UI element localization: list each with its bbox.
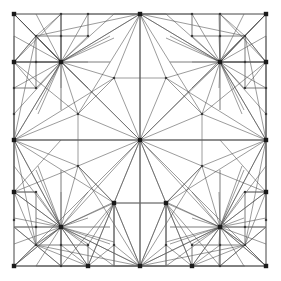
mesh-node-l2 (12, 190, 16, 194)
mesh-node-minor-2 (60, 13, 62, 15)
mesh-node-minor-10 (60, 265, 62, 267)
mesh-node-minor-13 (165, 77, 167, 79)
mesh-node-minor-34 (60, 35, 62, 37)
mesh-node-minor-7 (265, 113, 267, 115)
mesh-node-r2 (264, 190, 268, 194)
mesh-node-minor-0 (87, 13, 89, 15)
mesh-node-minor-8 (13, 219, 15, 221)
mesh-node-e_t (138, 12, 142, 16)
mesh-node-e_r (264, 138, 268, 142)
mesh-node-minor-19 (87, 35, 89, 37)
mesh-node-minor-18 (35, 35, 37, 37)
mesh-node-k_tl (12, 12, 16, 16)
mesh-node-k_tr (264, 12, 268, 16)
mesh-node-h1 (59, 60, 63, 64)
mesh-node-minor-30 (35, 61, 37, 63)
mesh-node-minor-31 (244, 61, 246, 63)
mesh-node-minor-32 (35, 226, 37, 228)
mesh-node-h3 (59, 225, 63, 229)
mesh-node-minor-26 (35, 244, 37, 246)
mesh-node-k_br (264, 264, 268, 268)
mesh-node-minor-27 (87, 244, 89, 246)
mesh-node-minor-12 (113, 77, 115, 79)
mesh-node-e_b (138, 264, 142, 268)
mesh-node-minor-28 (191, 244, 193, 246)
mesh-node-minor-20 (244, 35, 246, 37)
mesh-node-minor-11 (219, 265, 221, 267)
mesh-node-minor-4 (13, 87, 15, 89)
mesh-node-r1 (264, 60, 268, 64)
mesh-node-h2 (218, 60, 222, 64)
mesh-figure (0, 0, 281, 281)
mesh-node-minor-39 (165, 244, 167, 246)
mesh-node-minor-24 (35, 191, 37, 193)
mesh-node-minor-3 (219, 13, 221, 15)
mesh-node-l1 (12, 60, 16, 64)
mesh-node-k_bl (12, 264, 16, 268)
mesh-node-minor-29 (244, 244, 246, 246)
mesh-node-c (138, 138, 142, 142)
mesh-node-minor-22 (35, 87, 37, 89)
mesh-node-minor-16 (77, 165, 79, 167)
mesh-node-b1 (86, 264, 90, 268)
mesh-node-e_l (12, 138, 16, 142)
mesh-node-minor-1 (191, 13, 193, 15)
mesh-canvas (0, 0, 281, 281)
mesh-node-minor-5 (13, 113, 15, 115)
mesh-node-minor-17 (201, 165, 203, 167)
mesh-node-minor-21 (191, 35, 193, 37)
mesh-node-minor-25 (244, 191, 246, 193)
mesh-node-minor-14 (77, 113, 79, 115)
mesh-node-minor-23 (244, 87, 246, 89)
mesh-node-minor-38 (113, 244, 115, 246)
mesh-node-h4 (218, 225, 222, 229)
mesh-node-minor-33 (244, 226, 246, 228)
mesh-node-minor-35 (219, 35, 221, 37)
mesh-node-minor-36 (60, 244, 62, 246)
mesh-node-minor-6 (265, 87, 267, 89)
mesh-node-m2 (164, 201, 168, 205)
mesh-node-minor-9 (265, 219, 267, 221)
mesh-node-b2 (190, 264, 194, 268)
mesh-node-m1 (112, 201, 116, 205)
mesh-node-minor-37 (219, 244, 221, 246)
mesh-node-minor-15 (201, 113, 203, 115)
